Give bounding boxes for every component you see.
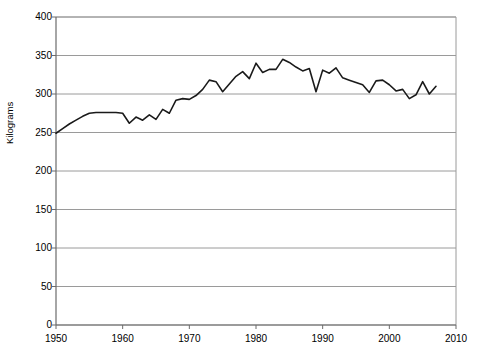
chart-container: Kilograms 050100150200250300350400 19501…	[0, 0, 488, 359]
data-series-line	[56, 59, 436, 133]
plot-area	[0, 0, 488, 359]
axis-ticks	[52, 17, 456, 329]
